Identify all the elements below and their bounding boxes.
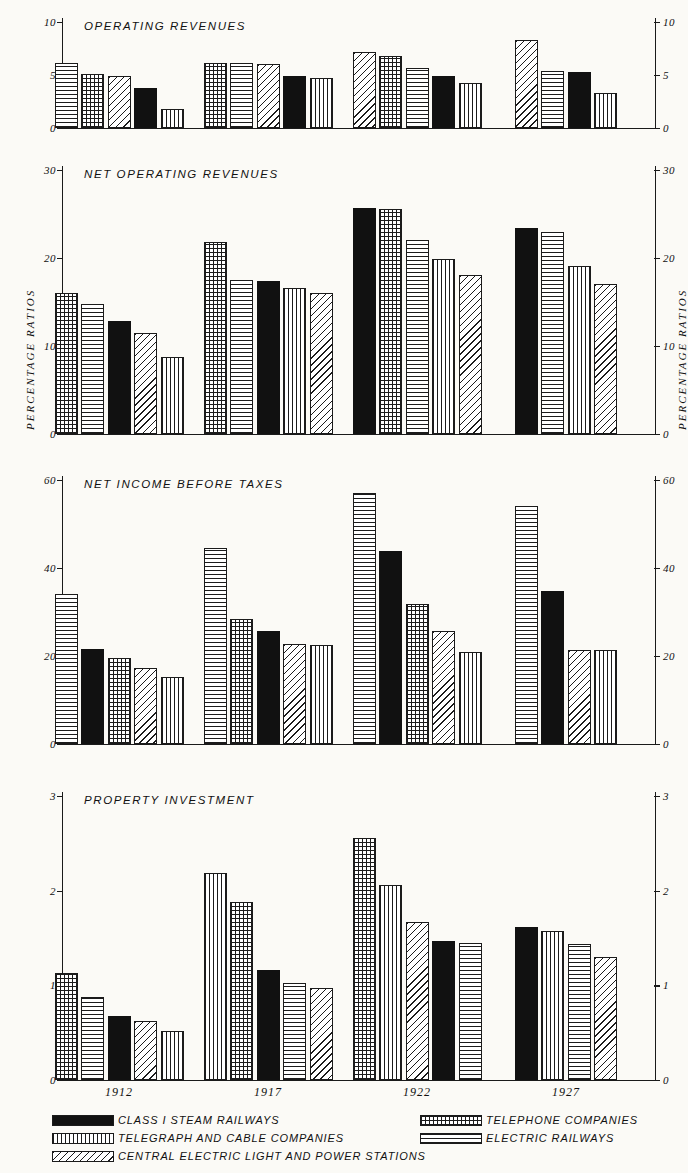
bar	[204, 548, 227, 744]
bar	[432, 941, 455, 1080]
y-tick-left	[57, 434, 63, 435]
y-tick-right	[654, 346, 660, 347]
bar	[108, 76, 131, 128]
y-tick-label-right: 2	[663, 885, 669, 897]
chart-panel-3: 00202040406060NET INCOME BEFORE TAXES	[0, 476, 688, 744]
panel-title: NET INCOME BEFORE TAXES	[84, 478, 284, 490]
legend-swatch-black	[52, 1115, 114, 1126]
chart-panel-2: 00101020203030NET OPERATING REVENUES	[0, 166, 688, 434]
bar	[230, 280, 253, 434]
y-tick-right	[654, 568, 660, 569]
year-label-1922: 1922	[403, 1085, 431, 1100]
y-tick-right	[654, 656, 660, 657]
y-tick-label-left: 3	[26, 790, 56, 802]
legend-item-diag: CENTRAL ELECTRIC LIGHT AND POWER STATION…	[52, 1150, 426, 1162]
y-tick-right	[654, 258, 660, 259]
bar	[310, 988, 333, 1080]
y-tick-label-right: 5	[663, 69, 669, 81]
legend-label: CENTRAL ELECTRIC LIGHT AND POWER STATION…	[118, 1150, 426, 1162]
bar	[161, 677, 184, 744]
y-tick-right	[654, 744, 660, 745]
bar	[134, 1021, 157, 1080]
bar	[108, 321, 131, 434]
y-tick-right	[654, 170, 660, 171]
bar	[283, 76, 306, 128]
y-tick-label-right: 3	[663, 790, 669, 802]
bar	[81, 304, 104, 434]
y-axis-right	[655, 792, 656, 1080]
y-tick-left	[57, 744, 63, 745]
y-tick-right	[654, 75, 660, 76]
y-tick-label-right: 0	[663, 122, 669, 134]
bar	[406, 240, 429, 434]
bar	[134, 333, 157, 434]
y-tick-left	[57, 480, 63, 481]
y-tick-left	[57, 170, 63, 171]
chart-sheet: 00551010OPERATING REVENUES00101020203030…	[0, 0, 688, 1173]
y-tick-label-left: 60	[26, 474, 56, 486]
legend-label: CLASS I STEAM RAILWAYS	[118, 1114, 279, 1126]
bar	[81, 74, 104, 128]
bar	[459, 83, 482, 128]
year-label-1912: 1912	[105, 1085, 133, 1100]
bar	[257, 64, 280, 128]
bar	[541, 591, 564, 744]
legend-item-vert: TELEGRAPH AND CABLE COMPANIES	[52, 1132, 344, 1144]
y-tick-label-right: 30	[663, 164, 675, 176]
bar	[594, 957, 617, 1080]
y-tick-label-right: 20	[663, 650, 675, 662]
y-tick-left	[57, 796, 63, 797]
y-tick-right	[654, 985, 660, 986]
y-tick-right	[654, 1080, 660, 1081]
bar	[283, 288, 306, 434]
legend-swatch-vert	[52, 1133, 114, 1144]
chart-panel-4: 00112233PROPERTY INVESTMENT	[0, 792, 688, 1080]
bar	[406, 604, 429, 744]
y-tick-label-left: 0	[26, 122, 56, 134]
y-tick-label-right: 0	[663, 738, 669, 750]
y-tick-label-right: 0	[663, 1074, 669, 1086]
y-tick-label-right: 40	[663, 562, 675, 574]
y-tick-left	[57, 22, 63, 23]
bar	[134, 88, 157, 128]
bar	[55, 594, 78, 744]
legend-label: TELEGRAPH AND CABLE COMPANIES	[118, 1132, 344, 1144]
bar	[459, 943, 482, 1080]
bar	[257, 631, 280, 744]
y-tick-label-right: 1	[663, 979, 669, 991]
bar	[541, 71, 564, 128]
bar	[55, 293, 78, 434]
bar	[515, 506, 538, 744]
x-axis-baseline	[62, 1080, 655, 1081]
bar	[283, 983, 306, 1080]
y-tick-label-left: 20	[26, 252, 56, 264]
y-tick-right	[654, 480, 660, 481]
bar	[257, 281, 280, 434]
legend-item-black: CLASS I STEAM RAILWAYS	[52, 1114, 279, 1126]
bar	[204, 63, 227, 128]
bar	[310, 645, 333, 744]
bar	[353, 838, 376, 1080]
legend-swatch-check	[420, 1115, 482, 1126]
bar	[568, 650, 591, 744]
panel-title: PROPERTY INVESTMENT	[84, 794, 255, 806]
y-tick-right	[654, 22, 660, 23]
bar	[379, 885, 402, 1080]
legend-item-horz: ELECTRIC RAILWAYS	[420, 1132, 614, 1144]
bar	[310, 78, 333, 128]
bar	[515, 228, 538, 434]
bar	[432, 76, 455, 128]
bar	[541, 931, 564, 1080]
y-tick-label-left: 0	[26, 738, 56, 750]
y-axis-title-right: PERCENTAGE RATIOS	[676, 289, 688, 430]
y-tick-label-right: 10	[663, 340, 675, 352]
bar	[406, 68, 429, 128]
y-tick-label-right: 60	[663, 474, 675, 486]
bar	[379, 209, 402, 434]
y-axis-title-left: PERCENTAGE RATIOS	[24, 289, 36, 430]
bar	[230, 63, 253, 128]
bar	[134, 668, 157, 744]
bar	[459, 275, 482, 434]
year-label-1917: 1917	[254, 1085, 282, 1100]
legend-label: ELECTRIC RAILWAYS	[486, 1132, 614, 1144]
